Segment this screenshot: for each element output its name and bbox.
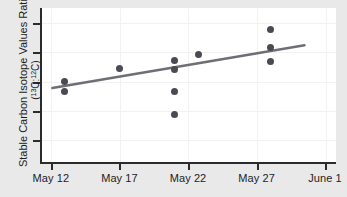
data-point bbox=[267, 26, 274, 33]
data-point bbox=[116, 65, 123, 72]
x-axis-tick bbox=[119, 163, 121, 170]
y-axis-title: Stable Carbon Isotope Values Ratio (13C:… bbox=[17, 0, 41, 170]
data-point bbox=[267, 44, 274, 51]
data-point bbox=[171, 66, 178, 73]
gridline-vertical bbox=[120, 8, 121, 163]
gridline-vertical bbox=[326, 8, 327, 163]
chart-figure: May 12May 17May 22May 27June 1 Stable Ca… bbox=[0, 0, 347, 197]
x-axis-tick-label: May 22 bbox=[170, 172, 207, 184]
data-point bbox=[171, 57, 178, 64]
x-axis-tick bbox=[51, 163, 53, 170]
x-axis-tick bbox=[325, 163, 327, 170]
y-axis-title-sub: (13C:12C) bbox=[30, 0, 42, 170]
x-axis-tick bbox=[188, 163, 190, 170]
plot-area bbox=[40, 8, 336, 163]
data-point bbox=[267, 58, 274, 65]
x-axis-tick-label: May 12 bbox=[33, 172, 70, 184]
y-axis-title-main: Stable Carbon Isotope Values Ratio bbox=[17, 0, 29, 167]
x-axis-tick bbox=[257, 163, 259, 170]
x-axis-tick-label: June 1 bbox=[308, 172, 342, 184]
data-point bbox=[171, 88, 178, 95]
x-axis-tick-label: May 17 bbox=[101, 172, 138, 184]
gridline-vertical bbox=[51, 8, 52, 163]
gridline-vertical bbox=[188, 8, 189, 163]
gridline-vertical bbox=[257, 8, 258, 163]
x-axis-tick-label: May 27 bbox=[238, 172, 275, 184]
